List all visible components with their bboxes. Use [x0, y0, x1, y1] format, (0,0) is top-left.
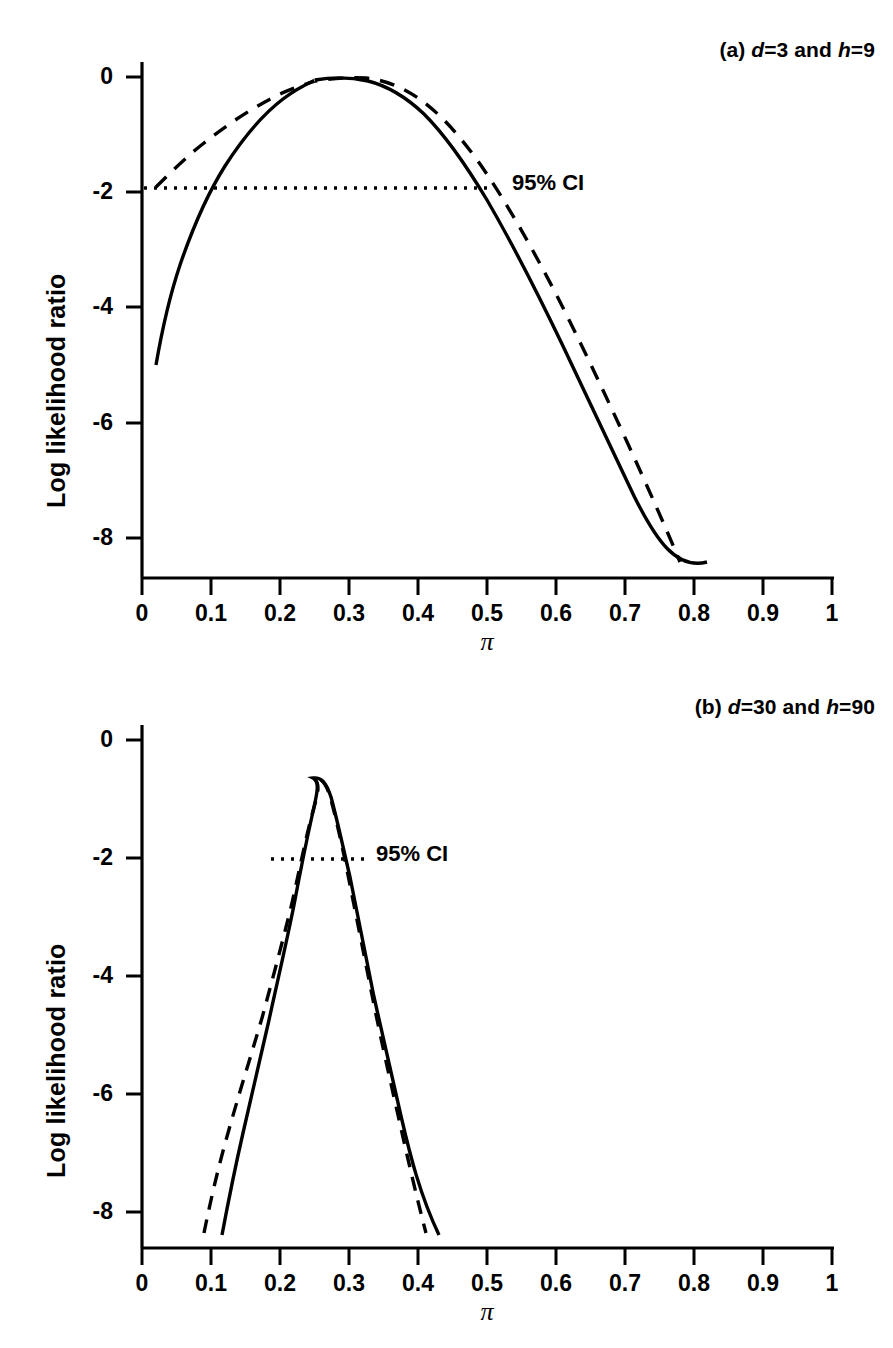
panel-b-plot-area [0, 663, 893, 1348]
panel-b-ytick-0: 0 [55, 726, 113, 753]
panel-b-ytick-minus8: -8 [55, 1198, 113, 1225]
panel-a-y-ticks [126, 77, 142, 538]
panel-a-x-axis-label: π [457, 627, 517, 657]
panel-b-xtick-0p9: 0.9 [733, 1270, 793, 1297]
panel-b-xtick-0p1: 0.1 [181, 1270, 241, 1297]
panel-b-ytick-minus4: -4 [55, 962, 113, 989]
panel-a-xtick-0p6: 0.6 [526, 600, 586, 627]
panel-a-xtick-0p3: 0.3 [319, 600, 379, 627]
panel-a-xtick-0p2: 0.2 [250, 600, 310, 627]
panel-b: (b) d=30 and h=90 Log likelihood ratio [0, 663, 893, 1348]
panel-b-xtick-0p2: 0.2 [250, 1270, 310, 1297]
panel-b-xtick-0p7: 0.7 [595, 1270, 655, 1297]
panel-b-ci-label: 95% CI [376, 841, 448, 867]
panel-a-xtick-0p9: 0.9 [733, 600, 793, 627]
panel-b-xtick-0: 0 [112, 1270, 172, 1297]
panel-a: (a) d=3 and h=9 Log likelihood ratio [0, 0, 893, 668]
panel-a-ytick-minus4: -4 [55, 293, 113, 320]
panel-b-xtick-0p3: 0.3 [319, 1270, 379, 1297]
figure-root: (a) d=3 and h=9 Log likelihood ratio [0, 0, 893, 1348]
panel-a-ytick-minus6: -6 [55, 409, 113, 436]
panel-a-curve-solid [156, 78, 707, 563]
panel-b-xtick-0p5: 0.5 [457, 1270, 517, 1297]
panel-a-xtick-0p7: 0.7 [595, 600, 655, 627]
panel-a-xtick-0p8: 0.8 [664, 600, 724, 627]
panel-b-x-ticks [142, 1248, 832, 1265]
panel-a-ytick-minus8: -8 [55, 524, 113, 551]
panel-a-xtick-0p5: 0.5 [457, 600, 517, 627]
panel-b-ytick-minus6: -6 [55, 1080, 113, 1107]
panel-a-xtick-0: 0 [112, 600, 172, 627]
panel-b-xtick-0p8: 0.8 [664, 1270, 724, 1297]
panel-a-xtick-0p4: 0.4 [388, 600, 448, 627]
panel-b-y-ticks [126, 740, 142, 1212]
panel-b-xtick-1: 1 [802, 1270, 862, 1297]
panel-a-ci-label: 95% CI [512, 170, 584, 196]
panel-b-ytick-minus2: -2 [55, 844, 113, 871]
panel-b-x-axis-label: π [457, 1297, 517, 1327]
panel-a-ytick-minus2: -2 [55, 178, 113, 205]
panel-a-xtick-0p1: 0.1 [181, 600, 241, 627]
panel-b-xtick-0p6: 0.6 [526, 1270, 586, 1297]
panel-b-xtick-0p4: 0.4 [388, 1270, 448, 1297]
panel-a-plot-area [0, 0, 893, 668]
panel-a-xtick-1: 1 [802, 600, 862, 627]
panel-a-ytick-0: 0 [55, 63, 113, 90]
panel-a-x-ticks [142, 578, 832, 595]
